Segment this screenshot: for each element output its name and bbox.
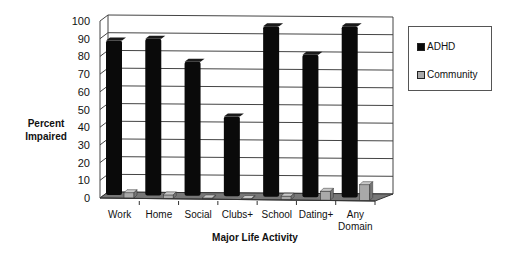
x-tick-label: School xyxy=(261,209,292,220)
bar-adhd-top xyxy=(145,36,165,39)
bar-community xyxy=(124,193,134,198)
y-tick-label: 20 xyxy=(78,157,90,169)
y-tick-label: 80 xyxy=(78,50,90,62)
bar-adhd-top xyxy=(224,114,244,117)
x-tick-label: Work xyxy=(108,209,132,220)
bar-adhd xyxy=(106,40,122,195)
bar-community-side xyxy=(370,182,373,201)
legend-swatch-adhd xyxy=(417,43,425,51)
x-tick-label: Any xyxy=(347,209,364,220)
legend-item-adhd: ADHD xyxy=(417,41,455,52)
y-axis-title: Percent Impaired xyxy=(16,117,76,143)
y-tick-label: 70 xyxy=(78,68,90,80)
x-tick-label: Dating+ xyxy=(299,209,334,220)
bar-adhd xyxy=(145,39,161,196)
bar-adhd xyxy=(302,55,318,198)
legend-label-community: Community xyxy=(427,69,478,80)
y-tick-label: 50 xyxy=(78,104,90,116)
bar-adhd-top xyxy=(185,59,205,62)
y-tick-label: 90 xyxy=(78,33,90,45)
bar-adhd xyxy=(224,117,240,197)
bar-adhd xyxy=(263,26,279,196)
y-axis-title-line1: Percent xyxy=(16,117,76,130)
bar-adhd-top xyxy=(263,23,283,26)
bar-community xyxy=(360,185,370,201)
y-tick-label: 60 xyxy=(78,86,90,98)
gridline xyxy=(108,15,393,17)
y-tick-label: 10 xyxy=(78,174,90,186)
x-tick-label: Clubs+ xyxy=(222,209,254,220)
y-tick-label: 0 xyxy=(84,192,90,204)
bar-community xyxy=(281,196,291,200)
y-tick-label: 40 xyxy=(78,121,90,133)
side-gridline xyxy=(100,15,108,21)
y-tick-label: 100 xyxy=(72,15,90,27)
legend-item-community: Community xyxy=(417,69,478,80)
bar-adhd xyxy=(342,26,358,197)
bar-community xyxy=(320,191,330,200)
x-tick-label: Home xyxy=(146,209,173,220)
bar-adhd-top xyxy=(342,23,362,26)
x-tick-label: Domain xyxy=(338,221,372,232)
bar-adhd xyxy=(185,62,201,196)
x-axis-title: Major Life Activity xyxy=(180,232,330,243)
legend-swatch-community xyxy=(417,71,425,79)
bar-adhd-top xyxy=(106,37,126,40)
legend-label-adhd: ADHD xyxy=(427,41,455,52)
side-gridline xyxy=(100,33,108,39)
legend: ADHD Community xyxy=(408,26,492,91)
bar-community xyxy=(163,195,173,199)
y-axis-title-line2: Impaired xyxy=(16,130,76,143)
x-tick-label: Social xyxy=(185,209,212,220)
y-tick-label: 30 xyxy=(78,139,90,151)
